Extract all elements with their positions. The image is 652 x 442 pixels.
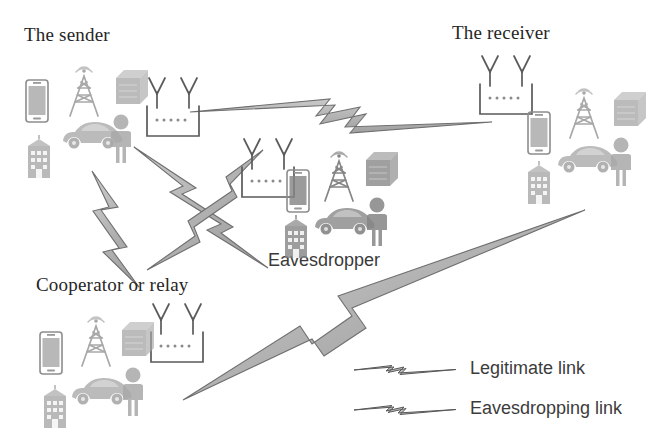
base-station-sender [147, 78, 199, 136]
legend-item-eavesdropping: Eavesdropping link [352, 388, 642, 428]
server-box-icon [122, 322, 154, 356]
car-icon [315, 208, 374, 235]
smartphone-icon [26, 80, 48, 122]
person-icon [367, 198, 387, 247]
server-box-icon [614, 92, 646, 126]
smartphone-icon [40, 332, 62, 374]
legend-label-eavesdropping: Eavesdropping link [470, 398, 622, 419]
legend-label-legitimate: Legitimate link [470, 358, 585, 379]
device-cluster-receiver [528, 89, 646, 204]
legend-symbol-legitimate [352, 356, 462, 380]
base-station-cooperator [151, 304, 203, 362]
smartphone-icon [528, 112, 550, 154]
legend-symbol-eavesdropping [352, 396, 462, 420]
server-box-icon [366, 152, 398, 186]
server-box-icon [116, 70, 148, 104]
office-building-icon [285, 215, 307, 258]
cell-tower-icon [70, 67, 98, 116]
office-building-icon [28, 135, 50, 178]
diagram-canvas: The sender The receiver Cooperator or re… [0, 0, 652, 442]
person-icon [611, 138, 631, 187]
person-icon [111, 115, 131, 164]
device-cluster-sender [26, 67, 148, 178]
car-icon [558, 146, 617, 173]
person-icon [123, 368, 143, 417]
lightning-bolt-icon [352, 396, 462, 420]
legend-item-legitimate: Legitimate link [352, 348, 642, 388]
cell-tower-icon [325, 152, 353, 201]
device-cluster-cooperator [40, 317, 154, 428]
office-building-icon [528, 161, 550, 204]
lightning-bolt-icon [352, 356, 462, 380]
legend: Legitimate link Eavesdropping link [352, 348, 642, 428]
device-cluster-eavesdropper [285, 152, 398, 258]
cell-tower-icon [570, 89, 598, 138]
cell-tower-icon [82, 317, 110, 366]
office-building-icon [44, 385, 66, 428]
car-icon [72, 378, 131, 405]
smartphone-icon [287, 170, 309, 212]
base-station-receiver [480, 56, 532, 114]
